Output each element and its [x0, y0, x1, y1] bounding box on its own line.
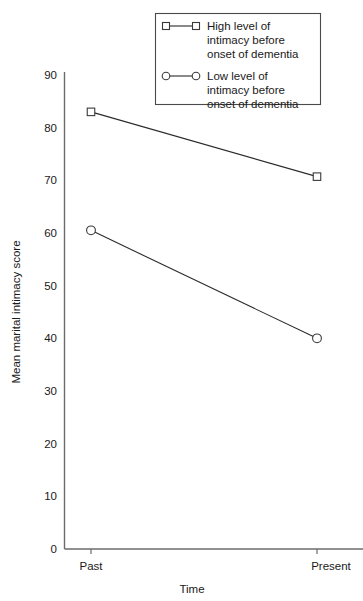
x-category-label-present: Present — [311, 560, 351, 572]
series-low-level-line — [91, 230, 317, 338]
legend-marker-circle-right — [192, 72, 200, 80]
data-point-low-present — [313, 334, 322, 343]
chart-container: 90 80 70 60 50 40 30 20 10 0 Mean marita… — [0, 0, 363, 601]
data-point-high-present — [313, 173, 321, 181]
series-low-level — [87, 226, 322, 343]
y-tick-label-40: 40 — [44, 332, 57, 344]
data-point-high-past — [87, 108, 95, 116]
legend-label-low-line1: Low level of — [207, 70, 269, 82]
x-category-label-past: Past — [79, 560, 103, 572]
data-point-low-past — [87, 226, 96, 235]
y-axis-title: Mean marital intimacy score — [10, 240, 22, 383]
y-tick-label-30: 30 — [44, 385, 57, 397]
y-tick-label-10: 10 — [44, 490, 57, 502]
x-axis-title: Time — [179, 583, 204, 595]
legend-label-high-line3: onset of dementia — [207, 48, 299, 60]
y-tick-label-50: 50 — [44, 280, 57, 292]
chart-legend: High level of intimacy before onset of d… — [156, 14, 321, 111]
legend-label-low-line2: intimacy before — [207, 84, 285, 96]
series-high-level — [87, 108, 321, 180]
series-high-level-line — [91, 112, 317, 177]
legend-marker-square-left — [163, 23, 170, 30]
y-tick-label-70: 70 — [44, 174, 57, 186]
y-tick-label-0: 0 — [51, 543, 57, 555]
y-tick-label-60: 60 — [44, 227, 57, 239]
y-tick-label-20: 20 — [44, 438, 57, 450]
line-chart: 90 80 70 60 50 40 30 20 10 0 Mean marita… — [0, 0, 363, 601]
legend-label-high-line2: intimacy before — [207, 34, 285, 46]
y-tick-label-90: 90 — [44, 69, 57, 81]
legend-label-low-line3: onset of dementia — [207, 98, 299, 110]
y-tick-label-80: 80 — [44, 122, 57, 134]
legend-marker-circle-left — [162, 72, 170, 80]
legend-label-high-line1: High level of — [207, 20, 271, 32]
legend-marker-square-right — [193, 23, 200, 30]
